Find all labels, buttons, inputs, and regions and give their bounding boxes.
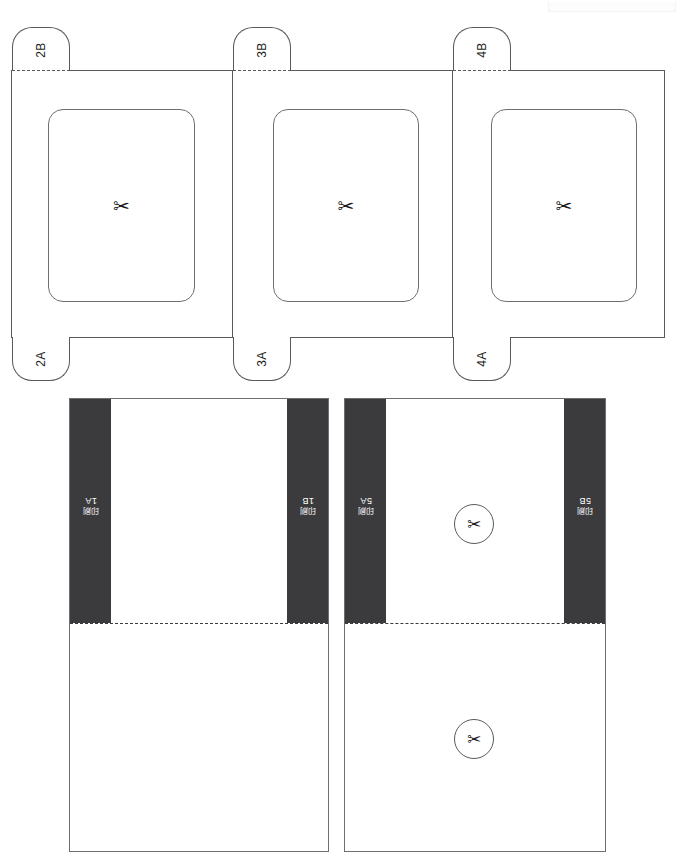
fold-line-body-2 [345, 623, 605, 624]
tab-4a[interactable]: 4A [453, 337, 511, 381]
fold-line-tab-2b [12, 70, 70, 71]
print-band-5a-code: 5A [358, 495, 374, 505]
print-band-1a: 印刷 1A [70, 399, 111, 623]
tab-2a[interactable]: 2A [12, 337, 70, 381]
scissors-icon: ✂ [113, 196, 130, 216]
lid-panel-1[interactable]: 2B ✂ 2A [11, 70, 233, 338]
cut-marker-lower[interactable]: ✂ [454, 719, 494, 759]
print-band-5a: 印刷 5A [345, 399, 386, 623]
print-band-5b-text: 印刷 5B [577, 495, 593, 515]
print-band-5a-text: 印刷 5A [358, 495, 374, 515]
tab-2b-label: 2B [34, 42, 48, 58]
print-band-5b-code: 5B [577, 495, 593, 505]
tab-2a-label: 2A [34, 351, 48, 367]
print-band-1b: 印刷 1B [287, 399, 328, 623]
lid-window-3[interactable]: ✂ [491, 109, 637, 302]
print-band-1a-cjk: 印刷 [83, 505, 99, 514]
body-panel-1[interactable]: 印刷 1A 印刷 1B [69, 398, 329, 852]
scissors-icon: ✂ [467, 731, 481, 748]
cut-marker-upper[interactable]: ✂ [454, 504, 494, 544]
fold-line-tab-3b [233, 70, 291, 71]
lid-panel-row: 2B ✂ 2A 3B ✂ 3A [11, 70, 665, 338]
tab-3b[interactable]: 3B [233, 27, 291, 71]
tab-4a-label: 4A [475, 351, 489, 367]
print-band-1b-text: 印刷 1B [300, 495, 316, 515]
tab-3a[interactable]: 3A [233, 337, 291, 381]
tab-3b-label: 3B [255, 42, 269, 58]
scissors-icon: ✂ [338, 196, 355, 216]
lid-panel-2[interactable]: 3B ✂ 3A [232, 70, 453, 338]
lid-window-1[interactable]: ✂ [48, 109, 195, 302]
print-band-1a-text: 印刷 1A [83, 495, 99, 515]
tab-2b[interactable]: 2B [12, 27, 70, 71]
scissors-icon: ✂ [556, 196, 573, 216]
print-band-1b-code: 1B [300, 495, 316, 505]
lid-panel-3[interactable]: 4B ✂ 4A [452, 70, 665, 338]
print-band-1a-code: 1A [83, 495, 99, 505]
print-band-5b-cjk: 印刷 [577, 505, 593, 514]
print-band-5b: 印刷 5B [564, 399, 605, 623]
tab-4b-label: 4B [475, 42, 489, 58]
tab-3a-label: 3A [255, 351, 269, 367]
tab-4b[interactable]: 4B [453, 27, 511, 71]
lid-window-2[interactable]: ✂ [273, 109, 419, 302]
fold-line-body-1 [70, 623, 328, 624]
print-band-1b-cjk: 印刷 [300, 505, 316, 514]
body-panel-row: 印刷 1A 印刷 1B 印刷 5A [69, 398, 606, 852]
body-panel-2[interactable]: 印刷 5A 印刷 5B ✂ ✂ [344, 398, 606, 852]
registration-patch [548, 2, 676, 12]
scissors-icon: ✂ [467, 516, 481, 533]
fold-line-tab-4b [453, 70, 511, 71]
print-band-5a-cjk: 印刷 [358, 505, 374, 514]
